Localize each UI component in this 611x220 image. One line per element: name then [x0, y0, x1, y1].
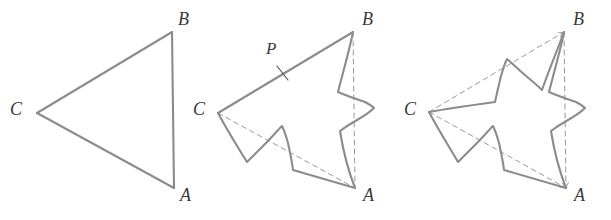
panel-stage-2 [429, 32, 585, 188]
vertex-label-a: A [363, 186, 374, 204]
vertex-label-a: A [574, 186, 585, 204]
vertex-label-c: C [404, 100, 416, 118]
chord-dashed-line [429, 112, 566, 188]
curve-edge [429, 112, 566, 188]
point-label-p: P [266, 40, 276, 57]
chord-dashed-line [564, 32, 566, 188]
vertex-label-c: C [193, 100, 205, 118]
panel-stage-0 [37, 32, 174, 188]
chord-dashed-line [353, 32, 355, 188]
curve-edge [172, 32, 174, 188]
vertex-label-c: C [10, 100, 22, 118]
panel-stage-1 [218, 32, 374, 188]
figure-board: BCABCAPBCA [0, 0, 611, 220]
vertex-label-b: B [573, 10, 584, 28]
vertex-label-b: B [178, 10, 189, 28]
curve-edge [218, 32, 353, 113]
curve-edge [429, 32, 564, 112]
vertex-label-b: B [362, 10, 373, 28]
vertex-label-a: A [180, 186, 191, 204]
curve-edge [37, 113, 174, 188]
chord-dashed-line [218, 113, 355, 188]
curve-edge [338, 32, 374, 188]
geometry-diagram [0, 0, 611, 220]
panels-group [37, 32, 585, 188]
curve-edge [37, 32, 172, 113]
